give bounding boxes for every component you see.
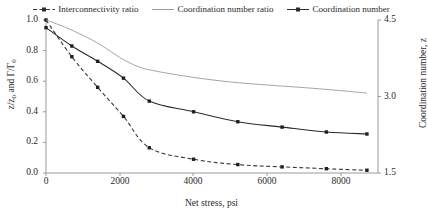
y-right-tick-label-3.0: 3.0 — [384, 91, 414, 101]
data-point-marker — [122, 76, 125, 79]
data-point-marker — [44, 26, 47, 29]
data-point-marker — [148, 146, 151, 149]
x-tick-label-6000: 6000 — [247, 176, 287, 186]
axis-lines — [46, 20, 378, 173]
y-left-tick-label-0.2: 0.2 — [8, 136, 38, 146]
series-line — [46, 20, 367, 170]
series-coordination-number — [44, 26, 368, 136]
y-axis-left-title: z/z0 and Γ/Γ0 — [6, 34, 19, 134]
data-point-marker — [192, 110, 195, 113]
y-left-title-pre: z/z — [6, 98, 16, 109]
data-point-marker — [325, 167, 328, 170]
x-axis-title: Net stress, psi — [0, 198, 423, 208]
data-point-marker — [280, 165, 283, 168]
x-tick-label-2000: 2000 — [100, 176, 140, 186]
y-left-tick-label-1.0: 1.0 — [8, 14, 38, 24]
y-left-title-sub2: 0 — [10, 59, 18, 63]
data-point-marker — [70, 44, 73, 47]
y-right-tick-label-1.5: 1.5 — [384, 167, 414, 177]
data-point-marker — [96, 86, 99, 89]
y-left-title-sub1: 0 — [10, 95, 18, 99]
data-point-marker — [365, 132, 368, 135]
y-left-title-mid: and Γ/Γ — [6, 63, 16, 95]
y-right-tick-label-4.5: 4.5 — [384, 14, 414, 24]
data-point-marker — [122, 115, 125, 118]
data-point-marker — [236, 163, 239, 166]
axis-ticks — [43, 20, 381, 176]
data-point-marker — [96, 60, 99, 63]
data-point-marker — [325, 130, 328, 133]
y-axis-right-title: Coordination number, z — [418, 18, 428, 148]
data-point-marker — [280, 125, 283, 128]
series-coordination-number-ratio — [46, 20, 367, 93]
data-point-marker — [236, 120, 239, 123]
data-point-marker — [148, 99, 151, 102]
series-layer — [44, 18, 368, 172]
x-tick-label-8000: 8000 — [321, 176, 361, 186]
data-point-marker — [192, 158, 195, 161]
data-point-marker — [365, 169, 368, 172]
data-point-marker — [70, 55, 73, 58]
series-interconnectivity-ratio — [44, 18, 368, 172]
x-tick-label-0: 0 — [26, 176, 66, 186]
series-line — [46, 28, 367, 134]
x-tick-label-4000: 4000 — [173, 176, 213, 186]
y-left-tick-label-0.0: 0.0 — [8, 167, 38, 177]
series-line — [46, 20, 367, 93]
